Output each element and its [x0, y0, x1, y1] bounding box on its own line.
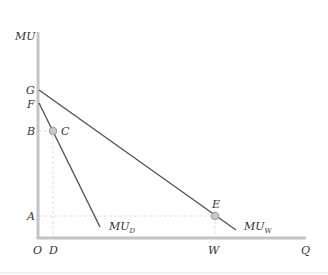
curve-label-mu-d: MUD	[108, 220, 136, 235]
y-label-b: B	[26, 125, 35, 138]
y-label-a: A	[26, 210, 35, 223]
x-label-d: D	[48, 244, 58, 257]
y-label-g: G	[26, 84, 35, 97]
curve-mu-d	[39, 103, 100, 227]
x-axis-label: Q	[301, 244, 310, 257]
origin-label: O	[33, 244, 42, 257]
mu-diagram: MU Q O G F B A D W C E MUD MUW	[0, 0, 328, 275]
point-label-e: E	[211, 198, 220, 211]
x-label-w: W	[208, 244, 221, 257]
y-label-f: F	[26, 98, 35, 111]
y-axis-label: MU	[14, 30, 36, 43]
point-c	[49, 127, 57, 135]
point-e	[211, 212, 219, 220]
curve-label-mu-w: MUW	[243, 220, 273, 235]
point-label-c: C	[61, 125, 70, 138]
curve-mu-w	[39, 90, 236, 230]
